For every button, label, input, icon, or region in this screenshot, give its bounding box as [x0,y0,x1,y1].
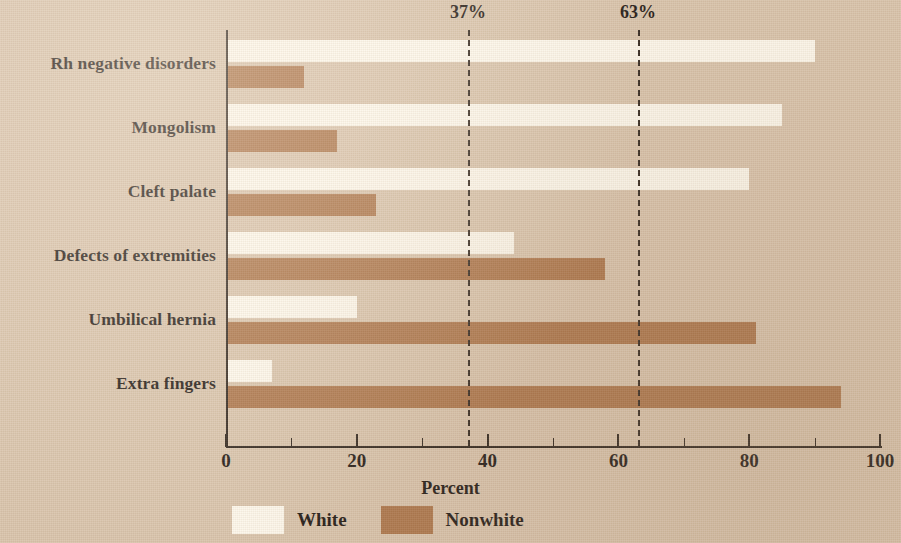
legend-item-nonwhite: Nonwhite [381,506,524,534]
bar-white-1 [226,40,815,62]
bar-nonwhite-4 [226,258,605,280]
x-minor-tick-10 [291,438,292,447]
x-tick-0 [225,434,227,447]
bar-white-6 [226,360,272,382]
x-tick-60 [617,434,619,447]
category-label-2: Mongolism [131,117,216,138]
bar-white-2 [226,104,782,126]
x-minor-tick-30 [422,438,423,447]
bar-white-3 [226,168,749,190]
bar-nonwhite-5 [226,322,756,344]
x-tick-20 [356,434,358,447]
category-label-1: Rh negative disorders [51,53,216,74]
legend-swatch-white [232,506,284,534]
bar-nonwhite-2 [226,130,337,152]
category-label-6: Extra fingers [116,373,216,394]
y-axis-line [226,30,228,448]
category-label-3: Cleft palate [128,181,216,202]
bar-nonwhite-3 [226,194,376,216]
category-label-4: Defects of extremities [54,245,216,266]
legend-swatch-nonwhite [381,506,433,534]
x-tick-label-20: 20 [347,450,366,472]
legend-label-white: White [297,509,347,531]
x-tick-label-60: 60 [609,450,628,472]
reference-63-label: 63% [620,2,656,23]
x-axis-title: Percent [0,478,901,499]
category-label-5: Umbilical hernia [88,309,216,330]
bar-white-5 [226,296,357,318]
bar-nonwhite-6 [226,386,841,408]
legend: White Nonwhite [232,506,524,534]
bar-white-4 [226,232,514,254]
x-tick-label-0: 0 [221,450,231,472]
x-tick-100 [879,434,881,447]
bar-nonwhite-1 [226,66,304,88]
x-tick-40 [487,434,489,447]
x-minor-tick-70 [684,438,685,447]
x-tick-label-40: 40 [478,450,497,472]
reference-63-line [638,30,640,446]
x-axis-line [226,446,882,448]
plot-area [226,36,880,440]
bar-chart: Rh negative disordersMongolismCleft pala… [0,0,901,543]
reference-37-line [468,30,470,446]
x-tick-80 [748,434,750,447]
category-axis-labels: Rh negative disordersMongolismCleft pala… [0,0,226,543]
x-tick-label-100: 100 [866,450,895,472]
reference-37-label: 37% [450,2,486,23]
x-minor-tick-90 [815,438,816,447]
x-minor-tick-50 [553,438,554,447]
x-tick-label-80: 80 [740,450,759,472]
legend-label-nonwhite: Nonwhite [446,509,524,531]
legend-item-white: White [232,506,347,534]
